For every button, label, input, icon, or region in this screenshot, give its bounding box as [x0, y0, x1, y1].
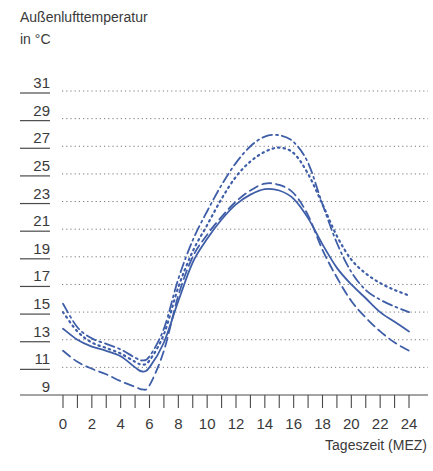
y-tick-label: 11	[34, 350, 50, 367]
y-tick-label: 25	[33, 157, 50, 174]
x-axis-title: Tageszeit (MEZ)	[325, 437, 427, 453]
x-tick-label: 10	[199, 415, 216, 432]
y-tick-label: 23	[33, 185, 50, 202]
y-tick-label: 31	[33, 74, 50, 91]
y-tick-label: 17	[33, 267, 50, 284]
x-tick-label: 18	[314, 415, 331, 432]
series-line-dashed	[63, 183, 409, 390]
series-line-dash-dot	[63, 135, 409, 361]
x-tick-label: 22	[372, 415, 389, 432]
x-tick-label: 24	[401, 415, 418, 432]
y-tick-label: 9	[42, 378, 50, 395]
x-tick-label: 8	[174, 415, 182, 432]
y-tick-label: 21	[33, 212, 50, 229]
x-tick-label: 2	[88, 415, 96, 432]
y-tick-label: 15	[33, 295, 50, 312]
y-axis: 91113151719212325272931	[20, 74, 50, 395]
x-axis: 024681012141618202224	[20, 395, 428, 432]
y-tick-label: 19	[33, 240, 50, 257]
x-tick-label: 16	[285, 415, 302, 432]
x-tick-label: 12	[228, 415, 245, 432]
x-tick-label: 20	[343, 415, 360, 432]
temperature-line-chart: 91113151719212325272931 0246810121416182…	[0, 0, 433, 471]
data-series	[63, 135, 409, 390]
x-tick-label: 6	[145, 415, 153, 432]
series-line-dotted	[63, 148, 409, 365]
x-tick-label: 4	[116, 415, 124, 432]
y-tick-label: 13	[33, 323, 50, 340]
x-tick-label: 0	[59, 415, 67, 432]
x-tick-label: 14	[256, 415, 273, 432]
y-tick-label: 27	[33, 129, 50, 146]
y-tick-label: 29	[33, 102, 50, 119]
